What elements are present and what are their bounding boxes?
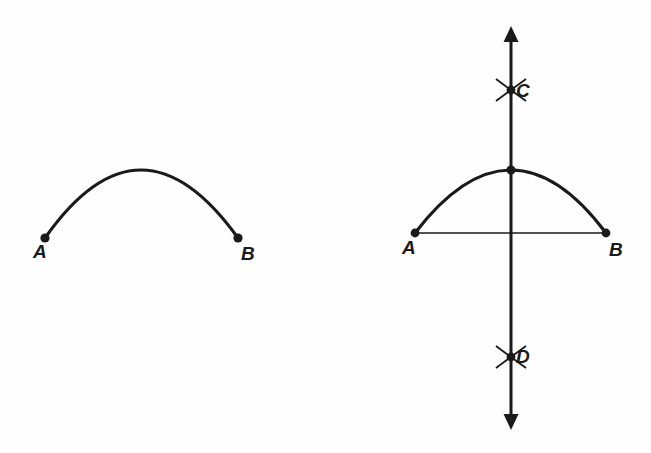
label-a-left: A (32, 241, 47, 262)
left-diagram: A B (32, 170, 255, 264)
arc-ab-left (45, 170, 238, 238)
arrowhead-up-icon (504, 26, 519, 42)
right-diagram: A B C D (401, 26, 623, 430)
label-b-left: B (241, 243, 255, 264)
point-d (507, 353, 516, 362)
point-arc-apex (506, 165, 515, 174)
diagram-canvas: A B (0, 0, 651, 453)
point-c (507, 86, 516, 95)
point-b-right (602, 229, 611, 238)
label-b-right: B (609, 239, 623, 260)
geometry-figure: A B (0, 0, 651, 453)
arrowhead-down-icon (504, 414, 519, 430)
point-b-left (233, 233, 242, 242)
label-c: C (516, 80, 530, 101)
label-d: D (516, 346, 530, 367)
label-a-right: A (401, 237, 416, 258)
